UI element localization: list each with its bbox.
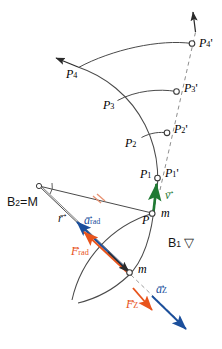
f-z-vector-arrow (133, 288, 152, 310)
node-P1prime (155, 175, 161, 181)
trajectory-arc (72, 67, 158, 300)
node-mass-lower (127, 270, 133, 276)
node-P (149, 211, 155, 217)
node-P4prime (189, 41, 195, 47)
node-P3prime (174, 89, 180, 95)
point-nodes (127, 41, 195, 276)
tangent-dashed-line (160, 12, 196, 190)
radius-line-upper (39, 186, 152, 213)
diagram-canvas (0, 0, 222, 349)
f-rad-vector-arrow (84, 232, 128, 273)
physics-diagram-circular-motion: P1 P1' P2 P2' P3 P3' P4 P4' P m m B2=M B… (0, 0, 222, 349)
velocity-vector-arrow (154, 184, 157, 212)
radius-arrow-into-mass (108, 252, 129, 272)
a-z-vector-arrow (152, 296, 186, 329)
node-P2prime (164, 130, 170, 136)
center-node-icon (36, 183, 41, 188)
tangent-arrow-p4 (56, 58, 78, 67)
